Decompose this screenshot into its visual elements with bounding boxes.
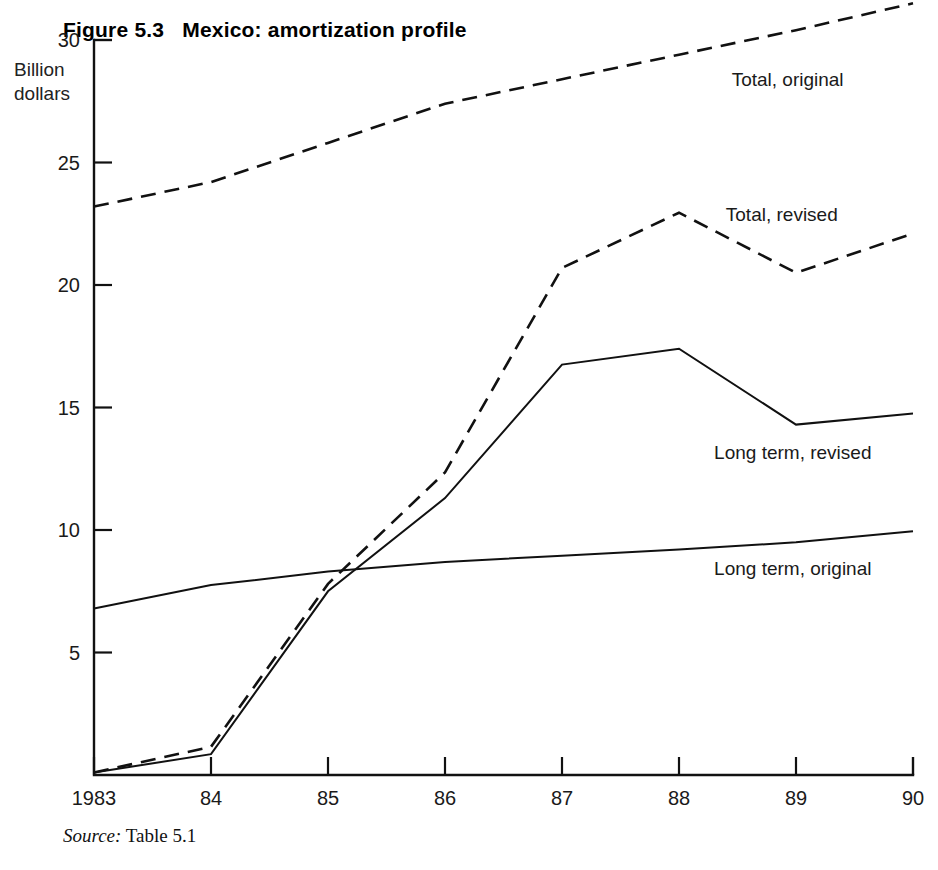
series-label-total-revised: Total, revised bbox=[726, 204, 838, 225]
series-line-total-original bbox=[94, 3, 913, 206]
source-label: Source: bbox=[63, 825, 121, 846]
x-tick-label-87: 87 bbox=[551, 787, 573, 809]
x-tick-label-88: 88 bbox=[668, 787, 690, 809]
x-axis-ticks bbox=[94, 757, 913, 775]
chart-plot-area: 51015202530 198384858687888990 Total, or… bbox=[0, 0, 938, 870]
y-tick-label-25: 25 bbox=[58, 152, 80, 174]
source-value: Table 5.1 bbox=[126, 825, 196, 846]
x-tick-label-85: 85 bbox=[317, 787, 339, 809]
axis-lines bbox=[94, 40, 913, 775]
series-line-total-revised bbox=[94, 213, 913, 773]
axes-group bbox=[94, 40, 913, 775]
x-tick-label-86: 86 bbox=[434, 787, 456, 809]
y-tick-label-20: 20 bbox=[58, 274, 80, 296]
x-tick-label-89: 89 bbox=[785, 787, 807, 809]
x-tick-label-1983: 1983 bbox=[72, 787, 117, 809]
series-label-total-original: Total, original bbox=[732, 69, 844, 90]
y-tick-label-30: 30 bbox=[58, 29, 80, 51]
figure-container: Figure 5.3Mexico: amortization profile B… bbox=[0, 0, 938, 870]
x-tick-label-90: 90 bbox=[902, 787, 924, 809]
x-axis-tick-labels: 198384858687888990 bbox=[72, 787, 924, 809]
source-note: Source: Table 5.1 bbox=[63, 825, 196, 847]
series-lines-group bbox=[94, 3, 913, 772]
series-label-long-term-revised: Long term, revised bbox=[714, 442, 871, 463]
series-inline-labels: Total, originalTotal, revisedLong term, … bbox=[714, 69, 871, 579]
y-tick-label-10: 10 bbox=[58, 519, 80, 541]
x-tick-label-84: 84 bbox=[200, 787, 222, 809]
y-tick-label-15: 15 bbox=[58, 397, 80, 419]
y-axis-ticks bbox=[94, 40, 112, 653]
y-axis-tick-labels: 51015202530 bbox=[58, 29, 80, 664]
series-label-long-term-original: Long term, original bbox=[714, 558, 871, 579]
y-tick-label-5: 5 bbox=[69, 642, 80, 664]
